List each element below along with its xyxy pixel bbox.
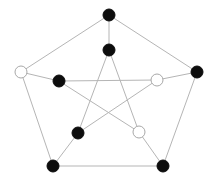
graph-edge (59, 80, 157, 81)
graph-edge (109, 50, 139, 132)
graph-edge (21, 72, 53, 166)
empty-node (133, 126, 145, 138)
filled-node (103, 9, 115, 21)
petersen-graph-diagram (0, 0, 216, 180)
filled-node (72, 127, 84, 139)
graph-edge (78, 50, 109, 133)
filled-node (157, 160, 169, 172)
graph-edge (59, 81, 139, 132)
graph-edge (109, 15, 197, 72)
graph-edge (163, 72, 197, 166)
filled-node (103, 44, 115, 56)
graph-edge (21, 15, 109, 72)
empty-node (151, 74, 163, 86)
graph-edges (21, 15, 197, 166)
filled-node (191, 66, 203, 78)
graph-edge (78, 80, 157, 133)
empty-node (15, 66, 27, 78)
filled-node (47, 160, 59, 172)
filled-node (53, 75, 65, 87)
